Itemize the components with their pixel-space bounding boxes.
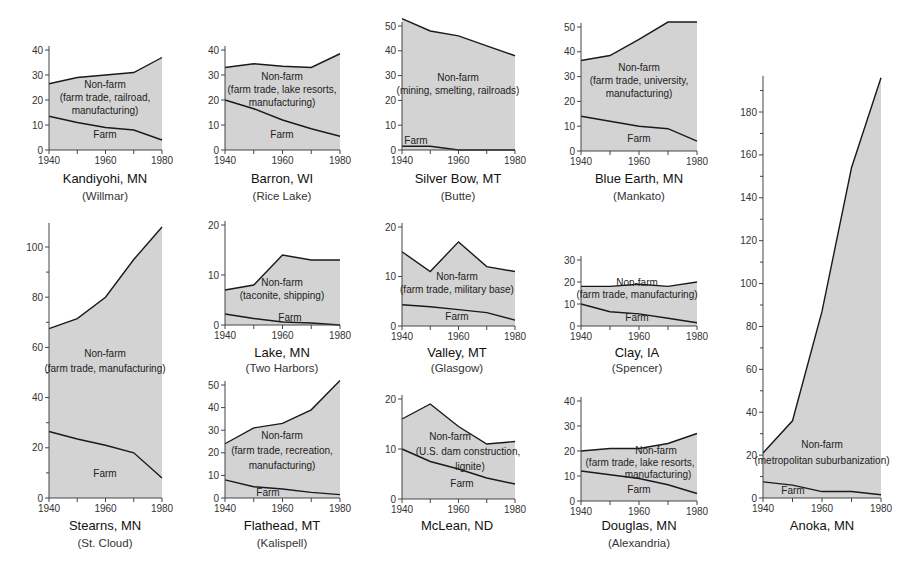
- y-tick-label: 160: [740, 149, 757, 160]
- x-tick-label: 1960: [271, 503, 294, 514]
- nonfarm-description: (farm trade, university,: [590, 75, 689, 86]
- nonfarm-description: (mining, smelting, railroads): [397, 85, 520, 96]
- y-tick-label: 40: [385, 45, 397, 56]
- y-tick-label: 80: [746, 321, 758, 332]
- y-tick-label: 0: [37, 145, 43, 156]
- y-tick-label: 10: [208, 470, 220, 481]
- x-tick-label: 1960: [447, 155, 470, 166]
- county-title: Flathead, MT: [244, 518, 321, 533]
- y-tick-label: 60: [746, 364, 758, 375]
- nonfarm-label: Non-farm: [618, 62, 660, 73]
- nonfarm-label: Non-farm: [437, 72, 479, 83]
- x-tick-label: 1960: [94, 155, 117, 166]
- x-tick-label: 1940: [391, 504, 414, 515]
- y-tick-label: 20: [385, 95, 397, 106]
- county-title: Clay, IA: [615, 345, 660, 360]
- nonfarm-label: Non-farm: [801, 439, 843, 450]
- city-subtitle: (Alexandria): [608, 537, 670, 549]
- y-tick-label: 20: [32, 442, 44, 453]
- x-tick-label: 1980: [686, 156, 709, 167]
- farm-label: Farm: [93, 129, 116, 140]
- y-tick-label: 40: [208, 45, 220, 56]
- x-tick-label: 1940: [38, 503, 61, 514]
- city-subtitle: (Two Harbors): [246, 362, 319, 374]
- county-title: Silver Bow, MT: [415, 171, 502, 186]
- x-tick-label: 1980: [504, 331, 527, 342]
- nonfarm-description: (farm trade, lake resorts,: [228, 84, 337, 95]
- nonfarm-label: Non-farm: [84, 348, 126, 359]
- y-tick-label: 50: [564, 22, 576, 33]
- nonfarm-label: Non-farm: [84, 79, 126, 90]
- county-title: Blue Earth, MN: [595, 171, 683, 186]
- nonfarm-description: (farm trade, railroad,: [60, 92, 151, 103]
- panel-clay-ia: 0102030194019601980Non-farm(farm trade, …: [564, 255, 709, 375]
- y-tick-label: 50: [208, 380, 220, 391]
- county-title: Douglas, MN: [601, 518, 676, 533]
- x-tick-label: 1980: [504, 155, 527, 166]
- panel-anoka-mn: 020406080100120140160180194019601980Non-…: [740, 76, 892, 533]
- county-title: Lake, MN: [254, 345, 310, 360]
- y-tick-label: 30: [208, 425, 220, 436]
- y-tick-label: 20: [564, 96, 576, 107]
- nonfarm-description: (farm trade, recreation,: [231, 445, 333, 456]
- y-tick-label: 0: [569, 496, 575, 507]
- x-tick-label: 1960: [94, 503, 117, 514]
- farm-label: Farm: [256, 487, 279, 498]
- panel-blue-earth-mn: 01020304050194019601980Non-farm(farm tra…: [564, 22, 709, 203]
- x-tick-label: 1960: [628, 156, 651, 167]
- panel-silver-bow-mt: 01020304050194019601980Non-farm(mining, …: [385, 19, 527, 202]
- county-title: Kandiyohi, MN: [63, 171, 148, 186]
- y-tick-label: 40: [32, 392, 44, 403]
- x-tick-label: 1980: [504, 504, 527, 515]
- panel-valley-mt: 01020194019601980Non-farm(farm trade, mi…: [385, 222, 527, 375]
- nonfarm-description: (farm trade, lake resorts,: [586, 457, 695, 468]
- y-tick-label: 180: [740, 107, 757, 118]
- nonfarm-description: manufacturing): [72, 105, 139, 116]
- farm-label: Farm: [627, 484, 650, 495]
- y-tick-label: 20: [564, 446, 576, 457]
- x-tick-label: 1940: [570, 156, 593, 167]
- farm-label: Farm: [450, 478, 473, 489]
- nonfarm-description: (farm trade, military base): [400, 284, 514, 295]
- city-subtitle: (Spencer): [612, 362, 663, 374]
- farm-label: Farm: [781, 485, 804, 496]
- nonfarm-label: Non-farm: [429, 431, 471, 442]
- panel-kandiyohi-mn: 010203040194019601980Non-farm(farm trade…: [32, 45, 174, 203]
- nonfarm-description: lignite): [455, 461, 484, 472]
- city-subtitle: (Willmar): [82, 190, 128, 202]
- x-tick-label: 1940: [570, 331, 593, 342]
- x-tick-label: 1960: [628, 331, 651, 342]
- nonfarm-description: (taconite, shipping): [240, 290, 325, 301]
- y-tick-label: 10: [208, 120, 220, 131]
- y-tick-label: 20: [208, 220, 220, 231]
- panel-lake-mn: 01020194019601980Non-farm(taconite, ship…: [208, 220, 352, 375]
- y-tick-label: 30: [385, 70, 397, 81]
- y-tick-label: 30: [32, 70, 44, 81]
- county-title: Anoka, MN: [790, 518, 854, 533]
- panel-barron-wi: 010203040194019601980Non-farm(farm trade…: [208, 45, 352, 203]
- county-title: Stearns, MN: [69, 518, 141, 533]
- y-tick-label: 40: [32, 45, 44, 56]
- x-tick-label: 1980: [870, 503, 893, 514]
- small-multiples-chart: 010203040194019601980Non-farm(farm trade…: [0, 0, 924, 588]
- city-subtitle: (Mankato): [613, 190, 665, 202]
- y-tick-label: 20: [32, 95, 44, 106]
- y-tick-label: 0: [213, 493, 219, 504]
- nonfarm-label: Non-farm: [261, 430, 303, 441]
- y-tick-label: 0: [37, 493, 43, 504]
- y-tick-label: 0: [390, 145, 396, 156]
- y-tick-label: 10: [385, 444, 397, 455]
- city-subtitle: (Butte): [441, 190, 476, 202]
- y-tick-label: 80: [32, 292, 44, 303]
- nonfarm-label: Non-farm: [635, 445, 677, 456]
- county-title: Barron, WI: [251, 171, 313, 186]
- x-tick-label: 1980: [686, 506, 709, 517]
- y-tick-label: 10: [564, 121, 576, 132]
- panel-flathead-mt: 01020304050194019601980Non-farm(farm tra…: [208, 380, 352, 550]
- y-tick-label: 10: [32, 120, 44, 131]
- x-tick-label: 1940: [752, 503, 775, 514]
- city-subtitle: (St. Cloud): [78, 537, 133, 549]
- panel-stearns-mn: 020406080100194019601980Non-farm(farm tr…: [26, 223, 173, 549]
- y-tick-label: 10: [564, 299, 576, 310]
- total-employment-area: [581, 22, 697, 151]
